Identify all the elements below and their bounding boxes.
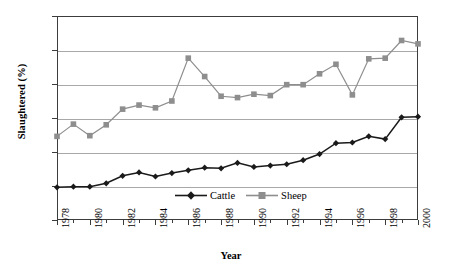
data-point-sheep bbox=[120, 106, 126, 112]
legend-swatch-cattle bbox=[175, 190, 207, 201]
data-point-sheep bbox=[153, 105, 159, 111]
data-point-sheep bbox=[300, 82, 306, 88]
chart-container: Slaughtered (%) 051015202530 19781980198… bbox=[0, 0, 462, 270]
data-point-cattle bbox=[284, 161, 290, 167]
data-point-sheep bbox=[399, 38, 405, 44]
data-point-cattle bbox=[251, 164, 257, 170]
legend-label-sheep: Sheep bbox=[281, 190, 307, 201]
data-point-sheep bbox=[103, 122, 109, 128]
data-point-cattle bbox=[366, 133, 372, 139]
data-point-sheep bbox=[415, 41, 421, 47]
legend-item-cattle: Cattle bbox=[175, 190, 235, 201]
data-point-sheep bbox=[136, 102, 142, 108]
data-point-sheep bbox=[202, 74, 208, 80]
series-layer bbox=[0, 0, 462, 270]
legend-swatch-sheep bbox=[246, 190, 278, 201]
data-point-cattle bbox=[103, 180, 109, 186]
data-point-sheep bbox=[54, 134, 60, 140]
data-point-sheep bbox=[71, 121, 77, 127]
x-axis-title: Year bbox=[0, 250, 462, 261]
data-point-cattle bbox=[152, 173, 158, 179]
data-point-cattle bbox=[169, 170, 175, 176]
data-point-sheep bbox=[268, 93, 274, 99]
data-point-sheep bbox=[317, 71, 323, 77]
legend-item-sheep: Sheep bbox=[246, 190, 307, 201]
data-point-sheep bbox=[284, 82, 290, 88]
data-point-cattle bbox=[267, 163, 273, 169]
data-point-cattle bbox=[415, 114, 421, 120]
data-point-cattle bbox=[87, 184, 93, 190]
data-point-cattle bbox=[234, 160, 240, 166]
data-point-cattle bbox=[349, 139, 355, 145]
data-point-cattle bbox=[202, 165, 208, 171]
data-point-cattle bbox=[218, 165, 224, 171]
data-point-sheep bbox=[366, 56, 372, 62]
data-point-cattle bbox=[70, 184, 76, 190]
legend-label-cattle: Cattle bbox=[210, 190, 235, 201]
data-point-sheep bbox=[382, 55, 388, 61]
data-point-sheep bbox=[350, 92, 356, 98]
chart-legend: Cattle Sheep bbox=[175, 190, 307, 201]
data-point-sheep bbox=[169, 98, 175, 104]
series-line-cattle bbox=[57, 117, 418, 188]
data-point-cattle bbox=[185, 167, 191, 173]
data-point-sheep bbox=[251, 91, 257, 97]
data-point-sheep bbox=[235, 95, 241, 101]
data-point-cattle bbox=[300, 157, 306, 163]
data-point-sheep bbox=[333, 61, 339, 67]
series-line-sheep bbox=[57, 40, 418, 136]
data-point-sheep bbox=[87, 133, 93, 139]
data-point-sheep bbox=[185, 55, 191, 61]
data-point-cattle bbox=[136, 169, 142, 175]
data-point-cattle bbox=[120, 173, 126, 179]
data-point-cattle bbox=[54, 184, 60, 190]
data-point-sheep bbox=[218, 93, 224, 99]
